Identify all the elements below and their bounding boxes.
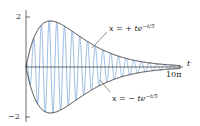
t-axis-label: t: [187, 60, 190, 68]
upper-annotation-leader: [92, 32, 107, 48]
lower-envelope-curve: [26, 67, 180, 113]
chart-plot: [0, 0, 200, 126]
upper-envelope-curve: [26, 21, 180, 67]
upper-envelope-label: x = + te−t/5: [109, 24, 155, 33]
lower-envelope-text: x = − te: [112, 94, 146, 103]
y-tick-label-2: 2: [16, 13, 21, 21]
x-tick-label-10pi: 10π: [166, 71, 181, 79]
upper-envelope-text: x = + te: [109, 24, 143, 33]
lower-envelope-label: x = − te−t/5: [112, 94, 158, 103]
upper-envelope-exponent: −t/5: [143, 23, 155, 29]
lower-envelope-exponent: −t/5: [146, 93, 158, 99]
y-tick-label-neg2: −2: [8, 113, 20, 121]
